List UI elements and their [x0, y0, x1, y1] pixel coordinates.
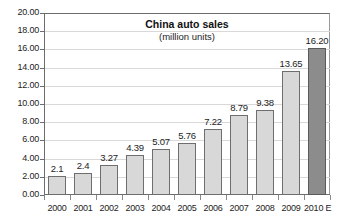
bar-value-label: 5.76	[174, 130, 200, 141]
y-axis-tick-label: 0.00	[22, 189, 39, 199]
x-axis-tick-label: 2009	[278, 203, 304, 213]
x-axis-tick-label: 2008	[252, 203, 278, 213]
x-axis-tick	[96, 195, 97, 200]
y-axis-tick-label: 12.00	[17, 80, 39, 90]
x-axis-tick-label: 2004	[148, 203, 174, 213]
x-axis-tick	[122, 195, 123, 200]
x-axis-tick-label: 2000	[44, 203, 70, 213]
y-axis-tick-label: 20.00	[17, 7, 39, 17]
bar-value-label: 8.79	[226, 102, 252, 113]
y-axis-tick-label: 14.00	[17, 62, 39, 72]
bar[interactable]	[204, 129, 222, 195]
x-axis-tick	[200, 195, 201, 200]
y-axis-tick-label: 4.00	[22, 153, 39, 163]
chart-container: 0.002.004.006.008.0010.0012.0014.0016.00…	[0, 0, 338, 223]
bar-value-label: 5.07	[148, 136, 174, 147]
chart-title: China auto sales	[44, 18, 330, 30]
bar[interactable]	[126, 155, 144, 195]
y-axis-tick-label: 6.00	[22, 134, 39, 144]
chart-subtitle: (million units)	[44, 31, 330, 42]
y-axis-tick-label: 8.00	[22, 116, 39, 126]
bar[interactable]	[178, 143, 196, 195]
bar-value-label: 4.39	[122, 142, 148, 153]
x-axis-tick-label: 2001	[70, 203, 96, 213]
y-axis-tick-label: 10.00	[17, 98, 39, 108]
x-axis-tick-label: 2007	[226, 203, 252, 213]
x-axis-tick	[278, 195, 279, 200]
x-axis-tick	[330, 195, 331, 200]
bar-value-label: 2.1	[44, 163, 70, 174]
x-axis-tick	[148, 195, 149, 200]
y-axis-tick-label: 2.00	[22, 171, 39, 181]
bar-value-label: 13.65	[278, 58, 304, 69]
bar[interactable]	[48, 176, 66, 195]
bar[interactable]	[282, 71, 300, 195]
bar[interactable]	[100, 165, 118, 195]
x-axis-tick	[226, 195, 227, 200]
y-axis-tick-label: 16.00	[17, 43, 39, 53]
bar[interactable]	[152, 149, 170, 195]
bar-value-label: 9.38	[252, 97, 278, 108]
x-axis-tick	[252, 195, 253, 200]
bar-value-label: 7.22	[200, 116, 226, 127]
x-axis-tick	[174, 195, 175, 200]
bar[interactable]	[256, 110, 274, 195]
bar-value-label: 2.4	[70, 160, 96, 171]
bar[interactable]	[308, 48, 326, 195]
x-axis-tick	[304, 195, 305, 200]
x-axis-tick-label: 2010 E	[304, 203, 330, 213]
x-axis-tick	[44, 195, 45, 200]
x-axis-tick-label: 2003	[122, 203, 148, 213]
bar[interactable]	[230, 115, 248, 195]
x-axis-tick-label: 2006	[200, 203, 226, 213]
x-axis-tick-label: 2002	[96, 203, 122, 213]
bar-value-label: 3.27	[96, 152, 122, 163]
x-axis-tick	[70, 195, 71, 200]
bar[interactable]	[74, 173, 92, 195]
y-axis-tick-label: 18.00	[17, 25, 39, 35]
x-axis-tick-label: 2005	[174, 203, 200, 213]
